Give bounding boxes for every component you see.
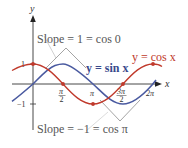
cos-point-pi bbox=[91, 102, 95, 106]
sine-cosine-slope-diagram: x y 1 −1 π 2 π 3π 2 2π bbox=[0, 0, 188, 148]
sin-curve-label: y = sin x bbox=[86, 61, 129, 75]
y-axis-label: y bbox=[29, 3, 35, 14]
cos-point-3pi-over-2 bbox=[121, 82, 125, 86]
cos-point-0 bbox=[31, 62, 35, 66]
x-tick-pi-over-2: π 2 bbox=[59, 87, 66, 104]
x-tick-pi: π bbox=[90, 89, 95, 98]
y-axis-arrow-icon bbox=[30, 15, 36, 22]
x-axis-arrow-icon bbox=[155, 81, 162, 87]
svg-text:2: 2 bbox=[120, 95, 124, 104]
svg-text:π: π bbox=[90, 89, 95, 98]
slope-annotation-top: Slope = 1 = cos 0 bbox=[37, 32, 121, 46]
cos-curve-label: y = cos x bbox=[132, 50, 176, 64]
slope-annotation-bottom: Slope = −1 = cos π bbox=[37, 122, 128, 136]
x-axis-label: x bbox=[164, 78, 170, 89]
cos-point-pi-over-2 bbox=[61, 82, 65, 86]
svg-text:2: 2 bbox=[60, 95, 64, 104]
y-tick-label-neg1: −1 bbox=[17, 100, 26, 109]
